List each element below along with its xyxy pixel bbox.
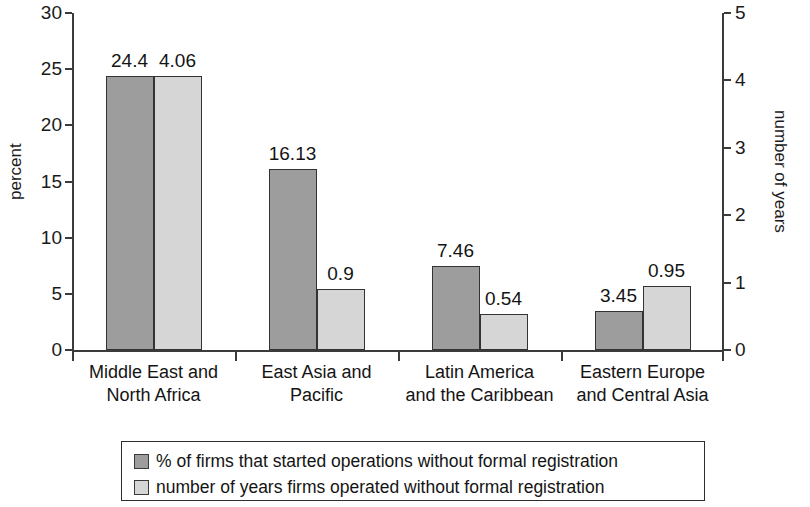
left-tick-mark (65, 68, 72, 70)
x-tick-mark (722, 352, 724, 361)
right-tick-mark (724, 79, 731, 81)
left-tick-label: 10 (41, 227, 62, 249)
bar-group-1-series-1 (317, 289, 365, 350)
x-tick-mark (398, 352, 400, 361)
left-tick-label: 25 (41, 58, 62, 80)
bar-group-2-series-1 (480, 314, 528, 350)
right-tick-label: 5 (735, 2, 746, 24)
x-tick-mark (561, 352, 563, 361)
legend-item-series-0: % of firms that started operations witho… (134, 448, 704, 474)
left-tick-label: 0 (51, 339, 62, 361)
legend: % of firms that started operations witho… (121, 441, 705, 501)
left-axis-title: percent (6, 143, 26, 200)
category-label-line: Eastern Europe (576, 361, 708, 384)
category-label-line: East Asia and (261, 361, 371, 384)
legend-label-series-0: % of firms that started operations witho… (156, 451, 618, 472)
bar-group-3-series-0 (595, 311, 643, 350)
right-tick-mark (724, 282, 731, 284)
category-label-line: and the Caribbean (405, 384, 553, 407)
category-label-line: Middle East and (89, 361, 218, 384)
x-tick-mark (235, 352, 237, 361)
bar-value-label-group-0-series-0: 24.4 (111, 50, 148, 72)
category-label-line: Latin America (405, 361, 553, 384)
left-tick-label: 15 (41, 171, 62, 193)
left-tick-label: 30 (41, 2, 62, 24)
category-label-line: and Central Asia (576, 384, 708, 407)
x-tick-mark (72, 352, 74, 361)
right-tick-mark (724, 147, 731, 149)
bar-group-0-series-0 (106, 76, 154, 350)
left-tick-mark (65, 12, 72, 14)
bar-value-label-group-3-series-1: 0.95 (648, 260, 685, 282)
bar-value-label-group-2-series-0: 7.46 (437, 240, 474, 262)
bar-group-3-series-1 (643, 286, 691, 350)
right-tick-mark (724, 349, 731, 351)
legend-swatch-icon-series-1 (134, 480, 149, 495)
bar-value-label-group-1-series-1: 0.9 (327, 263, 353, 285)
bar-value-label-group-2-series-1: 0.54 (485, 288, 522, 310)
category-label-3: Eastern Europeand Central Asia (576, 361, 708, 407)
plot-area: 051015202530 012345 24.44.0616.130.97.46… (72, 13, 724, 352)
bar-value-label-group-3-series-0: 3.45 (600, 285, 637, 307)
left-tick-label: 20 (41, 114, 62, 136)
bar-chart: 051015202530 012345 24.44.0616.130.97.46… (0, 0, 810, 507)
right-tick-mark (724, 12, 731, 14)
right-axis-line (722, 13, 724, 352)
right-tick-label: 3 (735, 137, 746, 159)
left-tick-label: 5 (51, 283, 62, 305)
right-tick-label: 1 (735, 272, 746, 294)
category-label-2: Latin Americaand the Caribbean (405, 361, 553, 407)
left-axis-line (72, 13, 74, 352)
bar-group-1-series-0 (269, 169, 317, 350)
category-label-line: Pacific (261, 384, 371, 407)
bar-group-2-series-0 (432, 266, 480, 350)
category-label-line: North Africa (89, 384, 218, 407)
category-label-0: Middle East andNorth Africa (89, 361, 218, 407)
bar-group-0-series-1 (154, 76, 202, 350)
legend-label-series-1: number of years firms operated without f… (156, 477, 604, 498)
bar-value-label-group-1-series-0: 16.13 (269, 143, 317, 165)
legend-swatch-icon-series-0 (134, 454, 149, 469)
right-tick-mark (724, 214, 731, 216)
right-axis-title: number of years (770, 110, 790, 233)
right-tick-label: 4 (735, 69, 746, 91)
right-tick-label: 0 (735, 339, 746, 361)
right-tick-label: 2 (735, 204, 746, 226)
left-tick-mark (65, 293, 72, 295)
left-tick-mark (65, 237, 72, 239)
left-tick-mark (65, 349, 72, 351)
bar-value-label-group-0-series-1: 4.06 (159, 50, 196, 72)
left-tick-mark (65, 181, 72, 183)
category-label-1: East Asia andPacific (261, 361, 371, 407)
left-tick-mark (65, 124, 72, 126)
legend-item-series-1: number of years firms operated without f… (134, 474, 704, 500)
